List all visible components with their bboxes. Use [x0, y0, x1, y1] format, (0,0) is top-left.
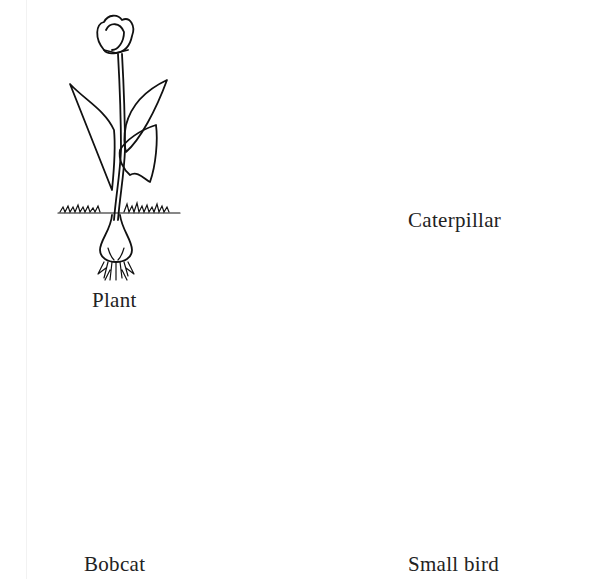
- small-bird-label: Small bird: [408, 554, 499, 575]
- tulip-plant-icon: [58, 16, 180, 280]
- caterpillar-label: Caterpillar: [408, 210, 501, 231]
- bobcat-label: Bobcat: [84, 554, 145, 575]
- plant-label: Plant: [92, 290, 137, 311]
